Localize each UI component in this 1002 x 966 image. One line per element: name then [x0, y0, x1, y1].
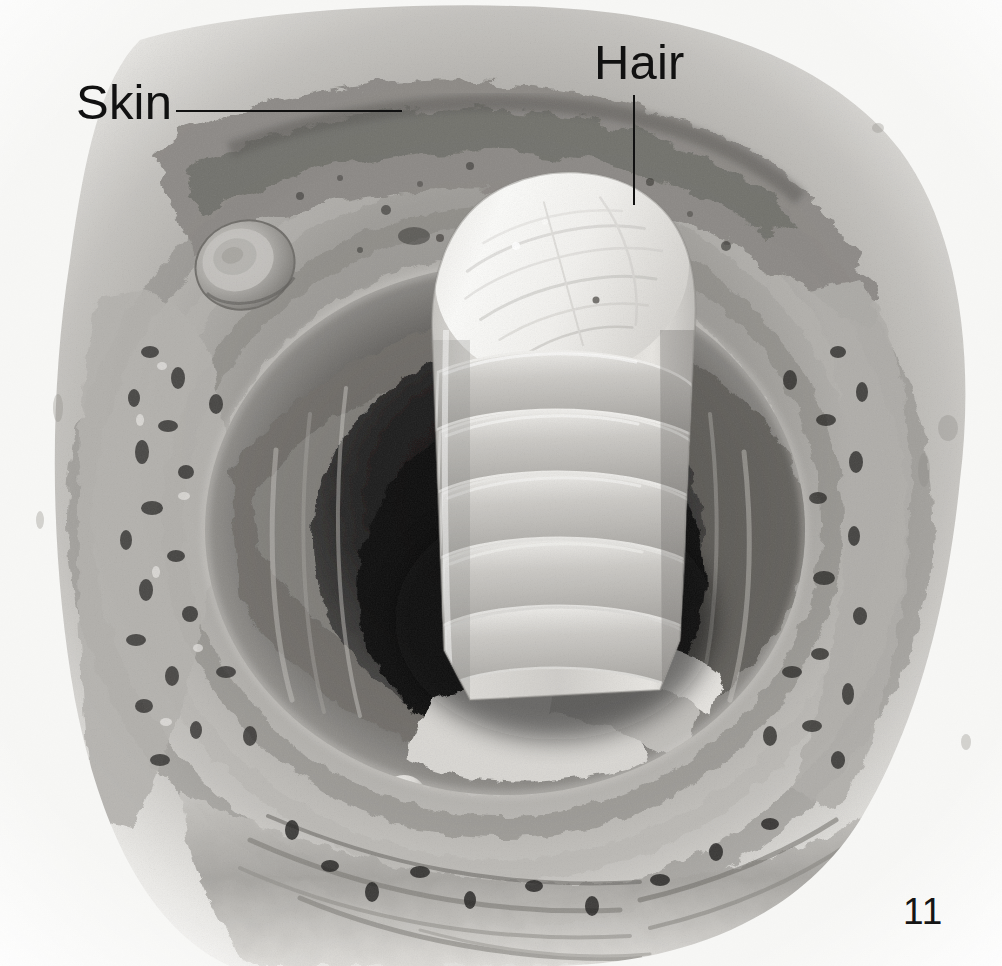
leader-line-skin [176, 110, 402, 112]
page-number: 11 [903, 893, 943, 931]
annotation-label-skin: Skin [76, 76, 172, 128]
leader-line-hair [633, 95, 635, 205]
annotation-label-hair: Hair [594, 36, 685, 88]
sem-micrograph [0, 0, 1002, 966]
figure-page: Skin Hair 11 [0, 0, 1002, 966]
